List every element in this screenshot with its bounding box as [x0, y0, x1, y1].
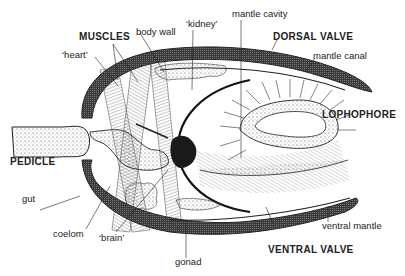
label-mantle-cavity: mantle cavity: [232, 9, 287, 19]
label-brain: ‘brain’: [99, 233, 124, 243]
label-pedicle: PEDICLE: [10, 157, 55, 167]
label-muscles: MUSCLES: [79, 32, 130, 42]
gonad-blob-2: [176, 198, 222, 210]
label-dorsal-valve: DORSAL VALVE: [273, 32, 353, 42]
label-ventral-valve: VENTRAL VALVE: [268, 245, 354, 255]
gut-shape: [90, 130, 168, 171]
label-ventral-mantle: ventral mantle: [322, 221, 382, 231]
pedicle-shape: [12, 126, 90, 157]
gonad-blob: [126, 183, 157, 210]
label-mantle-canal: mantle canal: [313, 51, 367, 61]
brain-mass: [170, 136, 196, 168]
label-body-wall: body wall: [136, 27, 176, 37]
label-lophophore: LOPHOPHORE: [322, 110, 396, 120]
label-coelom: coelom: [53, 229, 84, 239]
label-kidney: ‘kidney’: [186, 19, 218, 29]
label-gonad: gonad: [175, 257, 201, 267]
label-gut: gut: [22, 194, 35, 204]
label-heart: ‘heart’: [62, 50, 88, 60]
